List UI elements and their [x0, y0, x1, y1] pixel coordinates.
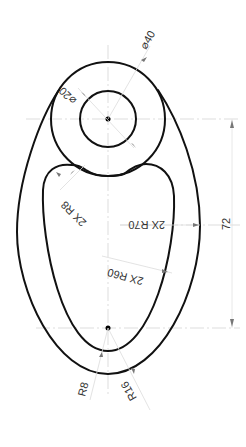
bottom-r16-arrow — [131, 368, 135, 374]
fillet-r8-arrow-b — [70, 170, 75, 175]
center-distance-72-label: 72 — [220, 218, 232, 230]
fillet-r8-leader — [60, 165, 85, 190]
dimension-72-arrow-top — [230, 120, 234, 128]
bottom-r8-arrow — [99, 352, 103, 357]
bottom-r8-label: R8 — [75, 381, 90, 398]
technical-drawing: ⌀40 ⌀20 2X R8 2X R70 2X R60 72 R8 R16 — [0, 0, 246, 447]
diameter-40-leader — [108, 46, 150, 119]
side-arc-2x-r60-label: 2X R60 — [106, 267, 145, 288]
r70-arrow — [193, 223, 199, 227]
side-arc-2x-r70-label: 2X R70 — [128, 219, 165, 231]
diameter-40-label: ⌀40 — [137, 28, 157, 51]
dimension-72-arrow-bottom — [230, 319, 234, 327]
bottom-r8-leader — [90, 328, 108, 400]
diameter-20-arrow-outer — [81, 92, 86, 97]
fillet-r8-arrow-a — [56, 172, 61, 177]
bottom-r16-label: R16 — [118, 380, 138, 403]
fillet-2x-r8-label: 2X R8 — [58, 199, 88, 229]
